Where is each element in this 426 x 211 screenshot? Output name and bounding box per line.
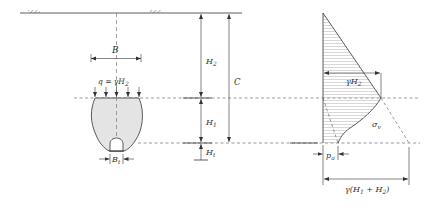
tunnel-outline-icon bbox=[110, 138, 123, 151]
width-b-dimension: B bbox=[91, 45, 141, 62]
soil-hatch-right-icon bbox=[150, 10, 162, 13]
svg-text:σv: σv bbox=[372, 120, 381, 130]
c-label: C bbox=[234, 77, 241, 87]
svg-text:Ht: Ht bbox=[205, 148, 216, 158]
collapse-zone bbox=[91, 98, 142, 151]
load-q: q = γH2 bbox=[95, 77, 139, 97]
svg-text:q = γH2: q = γH2 bbox=[98, 77, 129, 87]
load-q-label: q = γH bbox=[98, 77, 125, 86]
diagram-canvas: B q = γH2 Bt H2 H1 Ht bbox=[0, 0, 426, 211]
svg-text:H2: H2 bbox=[205, 57, 217, 67]
tunnel-width-dimension: Bt bbox=[99, 154, 134, 165]
ground-surface bbox=[20, 10, 242, 13]
depth-dimensions: H2 H1 Ht C bbox=[194, 14, 241, 160]
svg-text:H1: H1 bbox=[205, 118, 217, 128]
svg-text:pa: pa bbox=[326, 151, 335, 161]
total-pressure-label: γ(H1 + H2) bbox=[345, 185, 389, 195]
svg-text:Bt: Bt bbox=[111, 155, 121, 165]
pressure-diagram: γH2 σv pa γ(H1 + H2) bbox=[313, 13, 409, 195]
width-b-label: B bbox=[111, 45, 119, 55]
soil-hatch-left-icon bbox=[28, 10, 40, 13]
